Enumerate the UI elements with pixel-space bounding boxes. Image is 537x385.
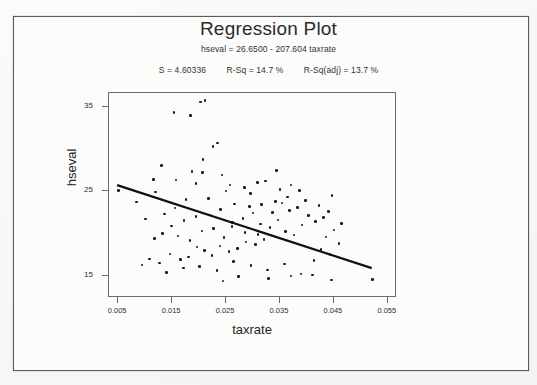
y-tick-mark [102, 275, 108, 276]
x-tick-mark [333, 297, 334, 303]
x-tick-label: 0.035 [262, 306, 296, 315]
x-tick-mark [117, 297, 118, 303]
x-tick-label: 0.025 [208, 306, 242, 315]
y-tick-label: 15 [65, 270, 93, 279]
x-tick-label: 0.045 [316, 306, 350, 315]
stat-s: S = 4.60336 [159, 65, 206, 75]
x-tick-mark [225, 297, 226, 303]
y-tick-label: 35 [65, 101, 93, 110]
x-tick-label: 0.015 [154, 306, 188, 315]
regression-equation: hseval = 26.6500 - 207.604 taxrate [0, 44, 537, 54]
x-tick-label: 0.055 [370, 306, 404, 315]
stat-rsq-adj: R-Sq(adj) = 13.7 % [304, 65, 378, 75]
y-axis-title: hseval [64, 133, 79, 203]
y-tick-mark [102, 190, 108, 191]
x-tick-mark [387, 297, 388, 303]
x-tick-mark [171, 297, 172, 303]
x-tick-label: 0.005 [100, 306, 134, 315]
page-title: Regression Plot [0, 18, 537, 40]
x-tick-mark [279, 297, 280, 303]
stat-rsq: R-Sq = 14.7 % [227, 65, 284, 75]
regression-statistics: S = 4.60336 R-Sq = 14.7 % R-Sq(adj) = 13… [0, 65, 537, 75]
x-axis-title: taxrate [108, 322, 396, 337]
regression-line [108, 92, 396, 297]
y-tick-mark [102, 106, 108, 107]
scanned-page: Regression Plot hseval = 26.6500 - 207.6… [0, 0, 537, 385]
